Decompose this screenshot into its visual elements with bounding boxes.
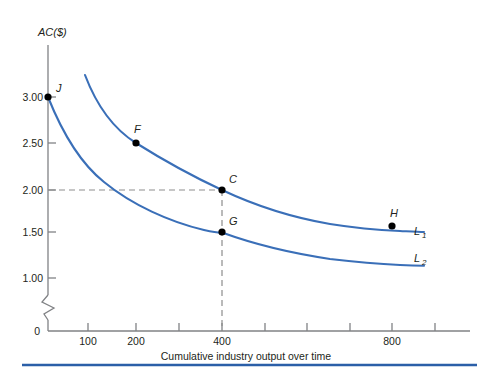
- curve-label-L1: L: [414, 225, 420, 237]
- curve-label-L2-subscript: 2: [421, 258, 427, 267]
- data-point-label-G: G: [229, 215, 238, 227]
- data-point-label-J: J: [55, 82, 62, 94]
- y-tick-label-3.00: 3.00: [23, 91, 44, 103]
- data-point-F: [132, 139, 139, 146]
- x-tick-label-400: 400: [213, 335, 231, 347]
- x-axis-title: Cumulative industry output over time: [161, 350, 332, 362]
- origin-label: 0: [34, 325, 40, 337]
- learning-curve-chart: 3.00 2.50 2.00 1.50 1.00 0 100 200 400 8…: [0, 0, 499, 372]
- y-axis-title: AC($): [37, 26, 67, 38]
- data-point-H: [388, 222, 395, 229]
- x-tick-label-200: 200: [127, 335, 145, 347]
- y-tick-label-2.00: 2.00: [23, 184, 44, 196]
- y-tick-label-1.50: 1.50: [23, 226, 44, 238]
- curve-label-L2: L: [414, 252, 420, 264]
- y-tick-label-2.50: 2.50: [23, 137, 44, 149]
- chart-background: [0, 0, 499, 372]
- x-tick-label-100: 100: [79, 335, 97, 347]
- data-point-label-H: H: [390, 207, 398, 219]
- data-point-C: [218, 186, 225, 193]
- data-point-G: [218, 228, 225, 235]
- data-point-label-C: C: [229, 173, 237, 185]
- data-point-J: [44, 93, 51, 100]
- curve-label-L1-subscript: 1: [422, 231, 426, 240]
- x-tick-label-800: 800: [383, 335, 401, 347]
- y-tick-label-1.00: 1.00: [23, 272, 44, 284]
